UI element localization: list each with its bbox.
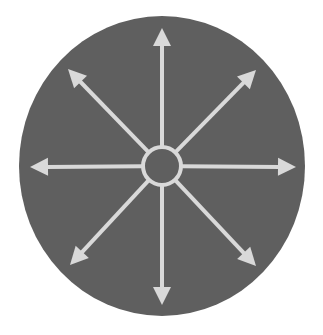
radial-arrows-diagram — [0, 0, 323, 335]
